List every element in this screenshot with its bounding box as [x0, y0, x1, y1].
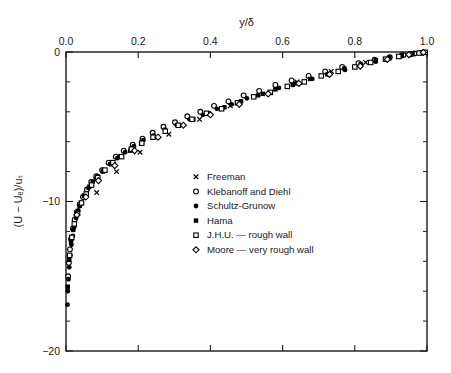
- data-point: [69, 240, 73, 244]
- data-point: [353, 65, 357, 69]
- data-point: [119, 154, 123, 158]
- data-point: [65, 289, 70, 294]
- data-point: [68, 247, 73, 252]
- data-point: [163, 129, 167, 133]
- figure-container: 0.00.20.40.60.81.00−10−20y/δ(U − Uₑ)/uₜF…: [0, 0, 451, 373]
- data-point: [140, 141, 144, 145]
- legend-label-2: Schultz-Grunow: [207, 200, 275, 211]
- data-point: [94, 190, 99, 195]
- y-tick-label: −20: [42, 345, 60, 357]
- data-point: [66, 285, 70, 289]
- data-point: [319, 74, 323, 78]
- x-tick-label: 0.8: [347, 35, 362, 47]
- data-point: [363, 60, 368, 65]
- data-point: [308, 77, 312, 81]
- series-4: [67, 50, 427, 257]
- x-tick-label: 0.6: [275, 35, 290, 47]
- x-axis-title: y/δ: [239, 16, 254, 28]
- data-point: [194, 204, 199, 209]
- x-tick-label: 1.0: [420, 35, 435, 47]
- data-point: [193, 247, 199, 253]
- data-point: [374, 58, 378, 62]
- legend-label-0: Freeman: [207, 171, 245, 182]
- y-tick-label: 0: [54, 46, 60, 58]
- data-point: [89, 183, 93, 187]
- data-point: [302, 80, 306, 84]
- data-point: [65, 302, 70, 307]
- data-point: [219, 107, 223, 111]
- data-point: [285, 84, 289, 88]
- data-point: [194, 189, 199, 194]
- x-tick-label: 0.0: [59, 35, 74, 47]
- data-point: [194, 218, 198, 222]
- legend-label-5: Moore — very rough wall: [207, 244, 314, 255]
- data-point: [79, 201, 83, 205]
- data-point: [342, 66, 346, 70]
- data-point: [194, 233, 198, 237]
- series-0: [94, 50, 424, 194]
- data-point: [197, 117, 202, 122]
- legend-label-1: Klebanoff and Diehl: [207, 186, 291, 197]
- data-point: [70, 235, 74, 239]
- y-axis-title: (U − Uₑ)/uₜ: [12, 175, 24, 227]
- data-point: [114, 169, 119, 174]
- data-point: [123, 150, 128, 155]
- data-point: [67, 265, 72, 270]
- data-point: [72, 222, 76, 226]
- velocity-defect-plot: 0.00.20.40.60.81.00−10−20y/δ(U − Uₑ)/uₜF…: [0, 0, 451, 373]
- legend: FreemanKlebanoff and DiehlSchultz-Grunow…: [193, 171, 314, 255]
- data-point: [67, 258, 71, 262]
- data-point: [229, 102, 234, 107]
- data-point: [103, 168, 107, 172]
- x-tick-label: 0.4: [203, 35, 218, 47]
- data-point: [368, 60, 372, 64]
- data-point: [256, 93, 260, 97]
- data-point: [273, 87, 277, 91]
- legend-label-4: J.H.U. — rough wall: [207, 229, 292, 240]
- data-point: [190, 117, 194, 121]
- data-point: [138, 150, 143, 155]
- data-point: [66, 277, 71, 282]
- data-point: [397, 54, 401, 58]
- data-point: [215, 106, 220, 111]
- data-point: [194, 175, 199, 180]
- x-tick-label: 0.2: [131, 35, 146, 47]
- data-point: [252, 95, 256, 99]
- data-point: [291, 83, 295, 87]
- legend-label-3: Hama: [207, 215, 233, 226]
- data-point: [71, 228, 75, 232]
- y-tick-label: −10: [42, 195, 60, 207]
- data-point: [67, 253, 71, 257]
- data-point: [336, 69, 340, 73]
- data-point: [289, 78, 294, 83]
- series-2: [65, 50, 428, 307]
- data-point: [244, 96, 249, 101]
